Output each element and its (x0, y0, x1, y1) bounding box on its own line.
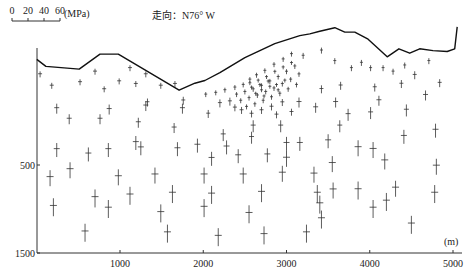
scale-bar-tick-label: 40 (39, 5, 49, 16)
stress-cross (214, 90, 217, 95)
stress-cross (67, 162, 74, 178)
stress-cross (289, 109, 293, 116)
stress-cross (383, 193, 390, 211)
stress-cross (273, 70, 276, 74)
stress-cross (242, 82, 245, 87)
stress-cross (248, 96, 251, 101)
stress-cross (287, 87, 290, 92)
stress-cross (270, 103, 274, 110)
stress-cross (282, 57, 285, 62)
stress-cross (433, 159, 440, 175)
stress-cross (290, 61, 293, 65)
stress-cross (262, 98, 265, 103)
stress-cross (233, 104, 237, 111)
stress-cross (289, 77, 292, 82)
stress-cross (253, 102, 256, 107)
strike-label: 走向：N76° W (152, 9, 216, 21)
stress-cross (438, 79, 442, 87)
stress-cross (261, 226, 268, 244)
topography-line (37, 27, 457, 90)
stress-cross (105, 143, 111, 157)
x-tick-label: 5000 (443, 258, 463, 269)
stress-cross (92, 189, 99, 207)
scale-bar-unit: (MPa) (64, 8, 90, 20)
stress-cross (138, 141, 144, 155)
stress-cross (413, 71, 417, 79)
stress-cross (224, 140, 230, 154)
stress-cross (355, 140, 362, 156)
stress-cross (201, 199, 208, 217)
stress-cross (275, 111, 279, 118)
stress-cross (275, 83, 278, 87)
stress-cross (297, 137, 303, 151)
stress-cross (258, 184, 265, 202)
stress-cross (223, 88, 226, 93)
stress-cross (355, 182, 362, 200)
stress-cross (233, 85, 236, 90)
stress-cross (346, 109, 351, 121)
stress-cross (313, 103, 318, 113)
stress-cross (333, 58, 336, 64)
stress-cross (128, 65, 132, 71)
stress-cross (243, 89, 246, 94)
stress-cross (126, 187, 133, 205)
stress-cross (134, 81, 138, 87)
stress-cross (399, 80, 403, 88)
stress-cross (329, 156, 336, 172)
stress-cross (258, 83, 261, 87)
stress-cross (431, 185, 438, 203)
stress-cross (107, 105, 112, 115)
stress-cross (218, 99, 222, 107)
stress-cross (263, 94, 266, 98)
stress-cross (239, 98, 242, 103)
stress-cross (382, 65, 385, 71)
stress-cross (283, 79, 286, 83)
stress-cross (169, 185, 176, 203)
stress-cross (85, 147, 91, 161)
stress-cross (235, 149, 241, 163)
stress-cross (157, 204, 164, 222)
stress-cross (303, 225, 310, 243)
stress-cross (201, 168, 208, 184)
stress-cross (273, 62, 276, 67)
x-axis-label: (m) (444, 236, 458, 248)
stress-cross (98, 114, 103, 124)
stress-cross (381, 153, 388, 169)
stress-cross (408, 216, 415, 234)
stress-cross (174, 142, 180, 156)
stress-cross (117, 78, 121, 84)
stress-cross (404, 104, 409, 116)
stress-cross (245, 104, 248, 109)
stress-section-diagram: 0204060 (MPa) 走向：N76° W 1000200030004000… (0, 0, 474, 280)
stress-cross (403, 63, 406, 69)
stress-cross (248, 81, 251, 85)
stress-cross (260, 88, 263, 92)
stress-cross (209, 152, 215, 166)
stress-cross (369, 65, 372, 71)
stress-cross (293, 64, 296, 69)
stress-cross (151, 168, 158, 184)
x-tick-label: 3000 (277, 258, 297, 269)
stress-cross (256, 93, 259, 98)
stress-cross (204, 92, 207, 97)
stress-cross (267, 79, 270, 83)
x-tick-label: 1000 (110, 258, 130, 269)
stress-cross (360, 60, 363, 66)
stress-cross (78, 79, 82, 85)
scale-bar-tick-label: 0 (10, 5, 15, 16)
stress-cross (50, 83, 54, 89)
stress-cross (285, 69, 288, 74)
y-tick-label: 500 (20, 160, 35, 171)
stress-cross (215, 228, 222, 246)
stress-cross (93, 69, 97, 75)
stress-cross (320, 48, 323, 54)
stress-cross (260, 107, 264, 114)
stress-cross (290, 52, 293, 57)
stress-cross (240, 168, 247, 184)
stress-cross (273, 86, 276, 91)
stress-cross (136, 118, 141, 128)
stress-cross (376, 96, 381, 106)
scale-bar-tick-label: 20 (23, 5, 33, 16)
stress-cross (277, 75, 280, 80)
stress-cross (350, 65, 353, 71)
